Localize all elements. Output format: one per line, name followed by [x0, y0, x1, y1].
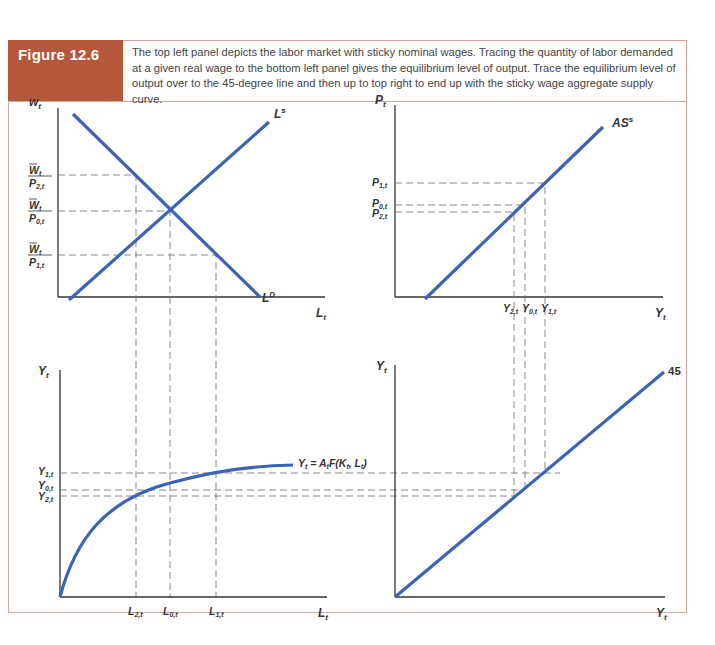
svg-text:L2,t: L2,t — [128, 605, 143, 619]
svg-text:Wt: Wt — [29, 243, 42, 256]
svg-text:L1,t: L1,t — [209, 605, 224, 619]
svg-text:Yt: Yt — [655, 306, 666, 322]
tl-ytick-p1: Wt P1,t — [28, 243, 52, 270]
svg-text:P0,t: P0,t — [29, 212, 45, 226]
svg-text:Y2,t: Y2,t — [503, 302, 519, 316]
panel-45-degree: Yt Yt 45 — [376, 359, 681, 622]
panel-aggregate-supply: Pt Yt ASs P1,t P0,t P2,t Y2,t Y0,t Y1,t — [372, 93, 666, 496]
svg-text:P2,t: P2,t — [29, 177, 45, 191]
svg-text:Y2,t: Y2,t — [38, 490, 54, 504]
svg-text:45: 45 — [668, 365, 681, 377]
svg-text:Y0,t: Y0,t — [522, 302, 538, 316]
45-degree-line — [395, 372, 664, 597]
svg-text:Yt: Yt — [38, 364, 49, 380]
tl-ytick-p0: Wt P0,t — [28, 199, 52, 226]
svg-text:Yt: Yt — [656, 606, 667, 622]
labor-supply-curve — [69, 122, 269, 300]
svg-text:P1,t: P1,t — [29, 256, 45, 270]
svg-text:Lt: Lt — [316, 306, 326, 322]
tr-guide-2 — [395, 212, 514, 496]
tl-guide-0 — [58, 211, 170, 597]
svg-text:Lt: Lt — [318, 606, 328, 622]
svg-text:wt: wt — [29, 95, 41, 111]
panel-production-function: Yt Lt Y1,t Y0,t Y2,t L2,t L0,t L1,t Yt =… — [38, 364, 560, 622]
production-function-label: Yt = AtF(Kt, Lt) — [298, 457, 367, 470]
svg-text:Y1,t: Y1,t — [541, 302, 557, 316]
svg-text:L0,t: L0,t — [163, 605, 178, 619]
svg-text:Yt: Yt — [376, 359, 387, 375]
svg-text:Y1,t: Y1,t — [38, 465, 54, 479]
svg-text:Pt: Pt — [375, 93, 386, 109]
panel-labor-market: wt Lt Ls LD Wt P2,t Wt P0,t Wt P1,t — [28, 95, 326, 597]
tl-guide-2 — [58, 175, 136, 597]
tr-guide-0 — [395, 205, 525, 490]
tr-guide-1 — [395, 183, 545, 472]
tl-ytick-p2: Wt P2,t — [28, 164, 52, 191]
svg-text:ASs: ASs — [611, 115, 634, 130]
svg-text:Wt: Wt — [29, 164, 42, 177]
svg-text:Wt: Wt — [29, 199, 42, 212]
figure-chart: .ax { stroke:#333; stroke-width:1.3; fil… — [0, 0, 715, 645]
svg-text:Ls: Ls — [274, 106, 286, 121]
svg-text:LD: LD — [262, 290, 275, 305]
svg-text:P1,t: P1,t — [372, 176, 388, 190]
production-function-curve — [60, 465, 293, 597]
